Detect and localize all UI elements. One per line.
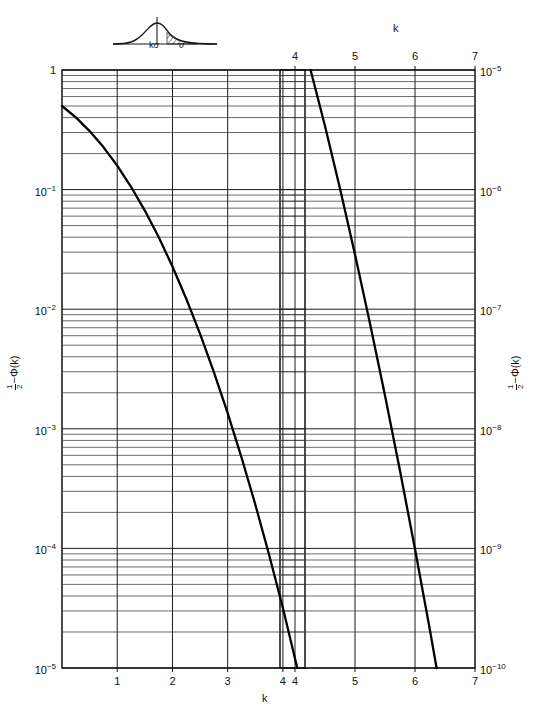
xtick-label-left-3: 3 [225, 675, 231, 687]
xtick-label-left-1: 1 [114, 675, 120, 687]
ylabel-right-4: 10−9 [480, 542, 501, 556]
xtick-label-top-7: 7 [472, 50, 478, 62]
ylabel-left-2: 10−2 [35, 303, 56, 317]
ylabel-left-3: 10−3 [35, 423, 56, 437]
xtick-label-rbot-4: 4 [292, 675, 298, 687]
xtick-label-rbot-7: 7 [472, 675, 478, 687]
xtick-label-top-4: 4 [292, 50, 298, 62]
ylabel-right-1: 10−6 [480, 184, 501, 198]
xtick-label-top-6: 6 [412, 50, 418, 62]
ylabel-left-5: 10−5 [35, 662, 56, 676]
ylabel-right-5: 10−10 [480, 662, 506, 676]
xtick-label-rbot-6: 6 [412, 675, 418, 687]
ylabel-left-1: 10−1 [35, 184, 56, 198]
xtick-label-left-2: 2 [169, 675, 175, 687]
xtick-label-left-4: 4 [280, 675, 286, 687]
ylabel-right-0: 10−5 [480, 64, 501, 78]
ylabel-right-3: 10−8 [480, 423, 501, 437]
xtick-label-top-5: 5 [352, 50, 358, 62]
axis-label-layer: 123444556677110−110−210−310−410−510−510−… [0, 0, 537, 719]
ylabel-left-0: 1 [50, 64, 56, 76]
figure-root: kσ υ k k 1 2 −Φ(k) 1 2 −Φ(k) 12344455667… [0, 0, 537, 719]
xtick-label-rbot-5: 5 [352, 675, 358, 687]
ylabel-right-2: 10−7 [480, 303, 501, 317]
ylabel-left-4: 10−4 [35, 542, 56, 556]
